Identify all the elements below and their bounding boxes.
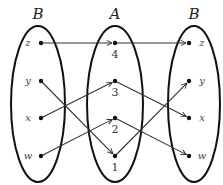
- set-ellipse-right: [168, 26, 220, 182]
- mapping-arrow: [115, 118, 186, 155]
- mapping-arrow: [115, 83, 187, 156]
- element-dot: [113, 116, 117, 120]
- element-dot: [39, 41, 43, 45]
- element-dot: [187, 41, 191, 45]
- mapping-arrow: [115, 81, 186, 117]
- element-dot: [39, 79, 43, 83]
- set-label-right: B: [187, 5, 199, 23]
- mapping-arrow: [41, 119, 112, 156]
- element-dot: [187, 154, 191, 158]
- element-dot: [187, 79, 191, 83]
- element-label: x: [199, 112, 205, 123]
- element-label: x: [25, 112, 31, 123]
- mapping-arrow: [41, 82, 112, 118]
- element-label: y: [198, 75, 205, 86]
- element-label: 4: [112, 48, 119, 61]
- element-dot: [113, 41, 117, 45]
- element-label: 2: [112, 123, 119, 136]
- element-dot: [187, 116, 191, 120]
- element-dot: [39, 154, 43, 158]
- element-label: z: [198, 37, 205, 48]
- set-ellipse-left: [11, 26, 65, 182]
- element-label: y: [24, 75, 31, 86]
- element-dot: [113, 79, 117, 83]
- set-label-middle: A: [108, 5, 121, 23]
- element-dot: [39, 116, 43, 120]
- element-label: 1: [112, 161, 119, 174]
- element-dot: [113, 154, 117, 158]
- element-label: w: [198, 150, 207, 161]
- element-label: 3: [112, 86, 119, 99]
- mapping-diagram: BzyxwA4321Bzyxw: [0, 0, 223, 185]
- element-label: w: [24, 150, 33, 161]
- set-label-left: B: [31, 5, 43, 23]
- element-label: z: [24, 37, 31, 48]
- mapping-arrow: [41, 81, 113, 154]
